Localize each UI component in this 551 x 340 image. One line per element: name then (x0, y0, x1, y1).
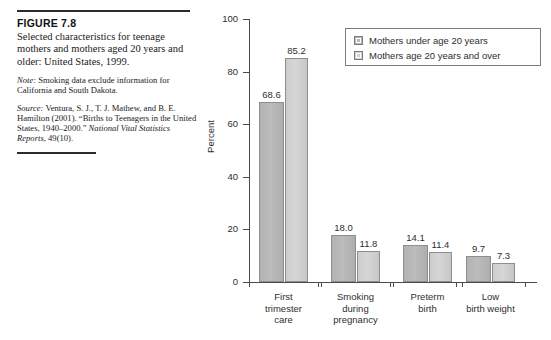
bar-chart: Percent 020406080100 68.685.218.011.814.… (200, 0, 551, 340)
bar-value-label: 11.8 (351, 238, 386, 249)
bar-value-label: 85.2 (279, 45, 314, 56)
figure-source: Source: Ventura, S. J., T. J. Mathew, an… (17, 103, 197, 144)
note-lead-label: Note: (17, 75, 36, 85)
x-axis-tick (249, 282, 250, 287)
figure-number: FIGURE 7.8 (17, 17, 197, 29)
bar (285, 58, 308, 282)
y-axis-line (249, 19, 250, 283)
y-axis-tick-label: 100 (208, 13, 238, 24)
y-axis-tick (243, 72, 249, 73)
x-axis-category-label: Low birth weight (446, 291, 536, 314)
source-lead-label: Source: (17, 103, 43, 113)
x-axis-tick (456, 282, 457, 287)
figure-title: Selected characteristics for teenage mot… (17, 31, 197, 68)
legend-swatch-icon-series-0 (354, 36, 363, 45)
x-axis-tick (393, 282, 394, 287)
x-axis-tick (525, 282, 526, 287)
y-axis-tick-label: 60 (208, 118, 238, 129)
y-axis-tick (243, 124, 249, 125)
bar (357, 251, 380, 282)
y-axis-tick (243, 177, 249, 178)
bar-value-label: 11.4 (423, 239, 458, 250)
legend-item-series-0: Mothers under age 20 years (354, 33, 540, 48)
caption-top-rule (17, 10, 190, 12)
y-axis-tick-label: 40 (208, 171, 238, 182)
bar (492, 263, 515, 282)
y-axis-tick-label: 0 (208, 276, 238, 287)
source-text-second: , 49(10). (44, 133, 73, 143)
legend-label-series-1: Mothers age 20 years and over (369, 50, 501, 61)
figure-note: Note: Smoking data exclude information f… (17, 75, 197, 95)
figure-caption-block: FIGURE 7.8 Selected characteristics for … (17, 10, 197, 154)
legend-item-series-1: Mothers age 20 years and over (354, 48, 540, 63)
legend-swatch-icon-series-1 (354, 51, 363, 60)
y-axis-tick-label: 80 (208, 66, 238, 77)
x-axis-tick (321, 282, 322, 287)
chart-legend: Mothers under age 20 years Mothers age 2… (345, 28, 541, 66)
bar (429, 252, 452, 282)
y-axis-tick (243, 229, 249, 230)
x-axis-tick (462, 282, 463, 287)
y-axis-title: Percent (205, 106, 216, 168)
bar-value-label: 18.0 (325, 222, 362, 233)
legend-label-series-0: Mothers under age 20 years (369, 35, 488, 46)
bar-value-label: 7.3 (486, 250, 521, 261)
caption-bottom-rule (17, 152, 96, 154)
y-axis-tick-label: 20 (208, 223, 238, 234)
note-text: Smoking data exclude information for Cal… (17, 75, 170, 95)
x-axis-tick (318, 282, 319, 287)
y-axis-tick (243, 19, 249, 20)
x-axis-tick (390, 282, 391, 287)
bar (259, 102, 284, 282)
bar (403, 245, 428, 282)
